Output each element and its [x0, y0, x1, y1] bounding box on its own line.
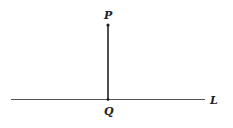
label-p: P [103, 9, 113, 22]
diagram-canvas: P Q L [0, 0, 233, 128]
label-q: Q [104, 105, 114, 118]
point-p-dot [106, 23, 109, 26]
point-q-dot [107, 98, 110, 101]
label-l: L [209, 94, 218, 107]
